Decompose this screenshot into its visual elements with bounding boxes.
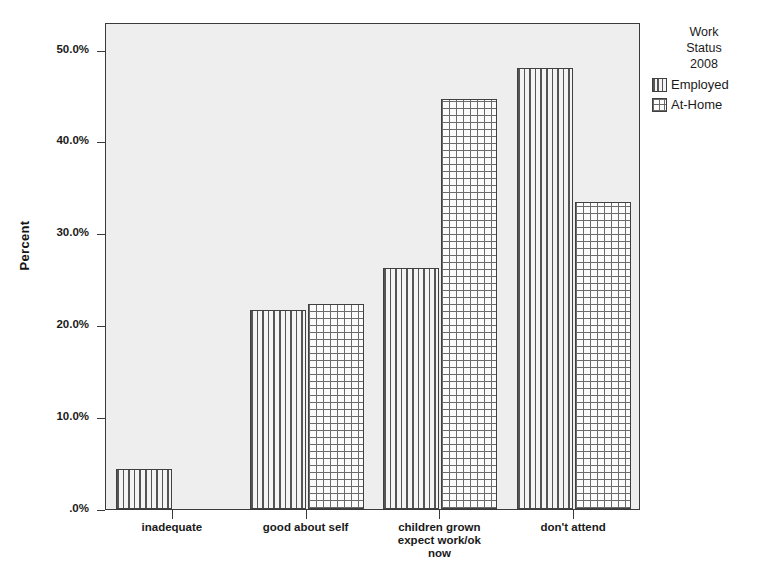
- x-tick-label-line: good about self: [239, 521, 373, 534]
- bar-employed-1[interactable]: [250, 310, 306, 509]
- x-tick-label: don't attend: [506, 521, 640, 534]
- bar-employed-0[interactable]: [116, 469, 172, 509]
- legend-item-at-home[interactable]: At-Home: [652, 97, 762, 112]
- x-tick-mark: [172, 510, 173, 519]
- y-axis-title: Percent: [17, 206, 32, 286]
- bar-athome-3[interactable]: [575, 202, 631, 509]
- legend-title-line: Status: [658, 40, 750, 56]
- y-tick: 10.0%: [0, 418, 105, 419]
- plot-area: [105, 23, 640, 510]
- legend-title-line: 2008: [658, 56, 750, 72]
- x-tick-label-line: now: [373, 547, 507, 560]
- y-tick-mark: [97, 234, 105, 235]
- x-tick-label-line: inadequate: [105, 521, 239, 534]
- bar-athome-2[interactable]: [441, 99, 497, 509]
- x-tick-mark: [573, 510, 574, 519]
- legend-swatch-icon: [652, 98, 667, 112]
- x-tick-label: children grownexpect work/oknow: [373, 521, 507, 560]
- bar-athome-1[interactable]: [308, 304, 364, 509]
- y-tick-mark: [97, 510, 105, 511]
- legend-item-label: Employed: [671, 77, 729, 92]
- x-tick-mark: [439, 510, 440, 519]
- legend-swatch-icon: [652, 78, 667, 92]
- legend: WorkStatus2008 EmployedAt-Home: [652, 24, 762, 112]
- y-tick-label: 40.0%: [56, 134, 89, 146]
- legend-item-employed[interactable]: Employed: [652, 77, 762, 92]
- x-tick-label-line: don't attend: [506, 521, 640, 534]
- plot-inner: [106, 24, 639, 509]
- x-tick-label-line: expect work/ok: [373, 534, 507, 547]
- x-tick-label: inadequate: [105, 521, 239, 534]
- y-tick: 30.0%: [0, 234, 105, 235]
- y-tick-label: .0%: [69, 502, 89, 514]
- x-tick-mark: [306, 510, 307, 519]
- y-tick: .0%: [0, 510, 105, 511]
- legend-entries: EmployedAt-Home: [652, 77, 762, 112]
- y-tick-mark: [97, 51, 105, 52]
- legend-title: WorkStatus2008: [658, 24, 750, 72]
- y-tick-mark: [97, 418, 105, 419]
- bar-employed-3[interactable]: [517, 68, 573, 509]
- x-tick-label: good about self: [239, 521, 373, 534]
- y-tick-label: 10.0%: [56, 410, 89, 422]
- legend-item-label: At-Home: [671, 97, 722, 112]
- y-tick-label: 20.0%: [56, 318, 89, 330]
- legend-title-line: Work: [658, 24, 750, 40]
- y-tick: 40.0%: [0, 142, 105, 143]
- bar-employed-2[interactable]: [383, 268, 439, 509]
- y-tick: 20.0%: [0, 326, 105, 327]
- y-tick: 50.0%: [0, 51, 105, 52]
- y-tick-mark: [97, 142, 105, 143]
- x-tick-label-line: children grown: [373, 521, 507, 534]
- y-tick-label: 30.0%: [56, 226, 89, 238]
- y-tick-label: 50.0%: [56, 43, 89, 55]
- y-tick-mark: [97, 326, 105, 327]
